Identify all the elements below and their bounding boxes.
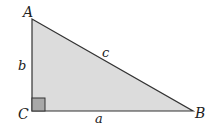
vertex-label-c: C [18,106,29,122]
side-label-a: a [95,111,103,126]
side-label-c: c [102,45,110,60]
vertex-label-a: A [21,4,33,20]
side-label-b: b [18,58,26,73]
triangle [32,19,193,111]
vertex-label-b: B [194,105,205,121]
right-triangle-diagram: A B C a b c [0,0,213,127]
right-angle-marker [32,98,45,111]
